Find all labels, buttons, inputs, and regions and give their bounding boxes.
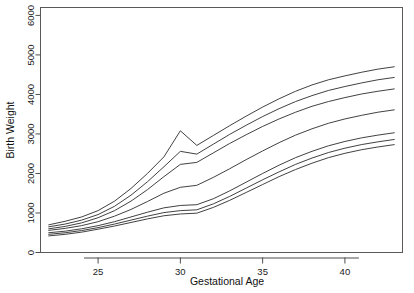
- curve-percentile-97: [49, 67, 395, 225]
- y-tick-label: 1000: [25, 202, 36, 223]
- y-tick-label: 2000: [25, 163, 36, 184]
- y-axis-ticks: [36, 15, 41, 252]
- y-axis-tick-labels: 0100020003000400050006000: [25, 5, 36, 255]
- x-axis-ticks: [84, 258, 359, 264]
- x-tick-label: 25: [93, 266, 104, 277]
- x-axis-title: Gestational Age: [190, 275, 264, 287]
- percentile-curves: [49, 67, 395, 236]
- chart-figure: 0100020003000400050006000 25303540 Birth…: [0, 0, 414, 293]
- x-tick-label: 40: [340, 266, 351, 277]
- curve-percentile-03: [49, 145, 395, 236]
- x-tick-label: 30: [175, 266, 186, 277]
- growth-chart-svg: 0100020003000400050006000 25303540 Birth…: [0, 0, 414, 293]
- y-tick-label: 4000: [25, 84, 36, 105]
- curve-percentile-50: [49, 110, 395, 231]
- y-tick-label: 5000: [25, 44, 36, 65]
- y-tick-label: 3000: [25, 123, 36, 144]
- curve-percentile-75: [49, 89, 395, 229]
- y-tick-label: 6000: [25, 5, 36, 26]
- curve-percentile-90: [49, 77, 395, 226]
- y-axis-title: Birth Weight: [4, 101, 16, 158]
- y-tick-label: 0: [25, 250, 36, 255]
